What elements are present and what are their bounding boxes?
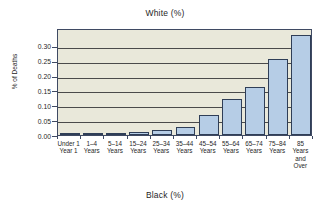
x-axis-tick-mark: [80, 136, 81, 139]
chart-title-top: White (%): [0, 8, 330, 18]
y-axis-tick-label: 0.10: [11, 103, 51, 110]
x-axis-tick-label: 55–64 Years: [219, 140, 242, 155]
x-axis-tick-mark: [196, 136, 197, 139]
y-axis-tick-label: 0.20: [11, 73, 51, 80]
y-axis-tick-label: 0.15: [11, 88, 51, 95]
bar: [199, 115, 219, 135]
x-axis-tick-label: 45–54 Years: [196, 140, 219, 155]
bar: [176, 127, 196, 135]
x-axis-tick-mark: [150, 136, 151, 139]
x-axis-tick-mark: [173, 136, 174, 139]
bar: [60, 133, 80, 135]
x-axis-tick-mark: [219, 136, 220, 139]
x-axis-tick-mark: [103, 136, 104, 139]
x-axis-tick-label: 85 Years and Over: [289, 140, 312, 170]
bar: [291, 35, 311, 135]
x-axis-tick-label: 15–24 Years: [127, 140, 150, 155]
bar: [245, 87, 265, 135]
y-axis-tick-label: 0.30: [11, 43, 51, 50]
y-axis-tick-label: 0.25: [11, 58, 51, 65]
bar: [106, 133, 126, 135]
x-axis-tick-label: Under 1 Year 1: [57, 140, 80, 155]
bar: [268, 59, 288, 135]
x-axis-tick-mark: [127, 136, 128, 139]
x-axis-tick-label: 65–74 Years: [242, 140, 265, 155]
plot-area: [57, 29, 312, 136]
chart-title-bottom: Black (%): [0, 190, 330, 200]
bar-series: [58, 30, 311, 135]
y-axis-tick-label: 0.00: [11, 133, 51, 140]
chart-figure: White (%) % of Deaths 0.300.250.200.150.…: [0, 0, 330, 207]
bar: [222, 99, 242, 135]
x-axis-tick-mark: [57, 136, 58, 139]
x-axis-tick-mark: [289, 136, 290, 139]
x-axis-tick-mark: [266, 136, 267, 139]
x-axis-tick-mark: [312, 136, 313, 139]
x-axis-tick-label: 35–44 Years: [173, 140, 196, 155]
x-axis-tick-mark: [242, 136, 243, 139]
y-axis-tick-label: 0.05: [11, 118, 51, 125]
x-axis-tick-label: 25–34 Years: [150, 140, 173, 155]
x-axis-tick-label: 75–84 Years: [266, 140, 289, 155]
x-axis-tick-label: 1–4 Years: [80, 140, 103, 155]
bar: [129, 132, 149, 135]
bar: [83, 133, 103, 135]
x-axis-tick-label: 5–14 Years: [103, 140, 126, 155]
bar: [152, 130, 172, 135]
